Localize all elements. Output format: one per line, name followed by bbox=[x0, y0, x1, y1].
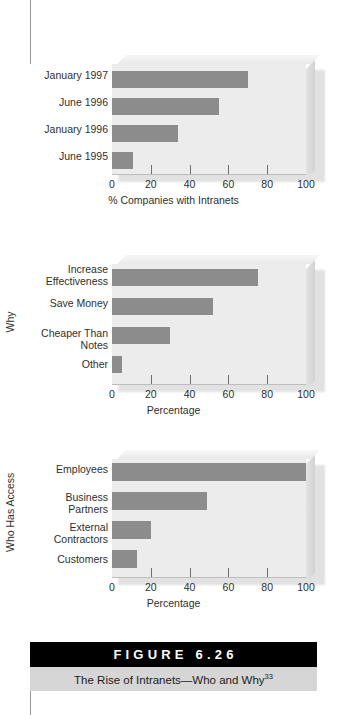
x-axis-title: Percentage bbox=[0, 404, 347, 416]
bar bbox=[112, 125, 178, 142]
x-axis-tick-label: 0 bbox=[109, 388, 115, 400]
x-axis-tick-label: 20 bbox=[145, 178, 157, 190]
chart-why-intranets: Increase EffectivenessSave MoneyCheaper … bbox=[0, 255, 347, 445]
x-axis-tick bbox=[228, 375, 229, 384]
bar bbox=[112, 327, 170, 344]
figure-caption: The Rise of Intranets—Who and Why33 bbox=[30, 667, 317, 691]
x-axis-title: % Companies with Intranets bbox=[0, 194, 347, 206]
x-axis-tick bbox=[151, 375, 152, 384]
x-axis-tick-label: 20 bbox=[145, 581, 157, 593]
y-axis-title: Why bbox=[4, 286, 16, 358]
x-axis-tick-label: 100 bbox=[297, 178, 315, 190]
plot-top-face bbox=[117, 55, 320, 64]
x-axis-tick-label: 60 bbox=[223, 581, 235, 593]
plot-top-face bbox=[117, 450, 320, 459]
margin-rule-bottom bbox=[30, 688, 31, 715]
plot-side-face bbox=[306, 260, 315, 389]
figure-page: January 1997June 1996January 1996June 19… bbox=[0, 0, 347, 715]
bar bbox=[112, 492, 207, 510]
figure-banner: FIGURE 6.26 bbox=[30, 642, 317, 667]
x-axis-tick-label: 80 bbox=[261, 581, 273, 593]
x-axis-tick bbox=[190, 165, 191, 174]
x-axis-tick bbox=[151, 568, 152, 577]
x-axis-tick-label: 40 bbox=[184, 178, 196, 190]
x-axis-tick-label: 0 bbox=[109, 178, 115, 190]
bar bbox=[112, 298, 213, 315]
x-axis-tick-label: 60 bbox=[223, 388, 235, 400]
x-axis-title: Percentage bbox=[0, 597, 347, 609]
chart1-plot-area: 020406080100% Companies with Intranets bbox=[0, 55, 347, 240]
x-axis-tick bbox=[151, 165, 152, 174]
chart2-plot-area: 020406080100Percentage bbox=[0, 255, 347, 445]
x-axis-tick bbox=[267, 375, 268, 384]
x-axis-tick-label: 80 bbox=[261, 388, 273, 400]
figure-caption-text: The Rise of Intranets—Who and Why33 bbox=[74, 672, 273, 686]
figure-caption-main: The Rise of Intranets—Who and Why bbox=[74, 674, 264, 686]
chart-who-has-access: EmployeesBusiness PartnersExternal Contr… bbox=[0, 450, 347, 635]
x-axis-tick bbox=[190, 568, 191, 577]
bar bbox=[112, 356, 122, 373]
x-axis-tick-label: 100 bbox=[297, 388, 315, 400]
figure-caption-footnote-ref: 33 bbox=[265, 672, 273, 681]
x-axis-tick-label: 80 bbox=[261, 178, 273, 190]
bar bbox=[112, 71, 248, 88]
chart3-plot-area: 020406080100Percentage bbox=[0, 450, 347, 635]
x-axis-tick bbox=[267, 165, 268, 174]
x-axis-line bbox=[112, 577, 306, 578]
chart-companies-with-intranets: January 1997June 1996January 1996June 19… bbox=[0, 55, 347, 240]
plot-top-face bbox=[117, 255, 320, 264]
bar bbox=[112, 98, 219, 115]
figure-number-label: FIGURE 6.26 bbox=[109, 647, 237, 662]
y-axis-title: Who Has Access bbox=[4, 480, 16, 552]
plot-side-face bbox=[306, 455, 315, 582]
x-axis-tick bbox=[267, 568, 268, 577]
x-axis-tick bbox=[190, 375, 191, 384]
x-axis-tick-label: 60 bbox=[223, 178, 235, 190]
bar bbox=[112, 269, 258, 286]
bar bbox=[112, 463, 306, 481]
x-axis-tick bbox=[228, 568, 229, 577]
x-axis-line bbox=[112, 384, 306, 385]
x-axis-tick-label: 100 bbox=[297, 581, 315, 593]
x-axis-line bbox=[112, 174, 306, 175]
x-axis-tick-label: 20 bbox=[145, 388, 157, 400]
bar bbox=[112, 550, 137, 568]
x-axis-tick-label: 0 bbox=[109, 581, 115, 593]
bar bbox=[112, 521, 151, 539]
bar bbox=[112, 152, 133, 169]
x-axis-tick bbox=[228, 165, 229, 174]
x-axis-tick-label: 40 bbox=[184, 388, 196, 400]
x-axis-tick-label: 40 bbox=[184, 581, 196, 593]
plot-side-face bbox=[306, 60, 315, 179]
